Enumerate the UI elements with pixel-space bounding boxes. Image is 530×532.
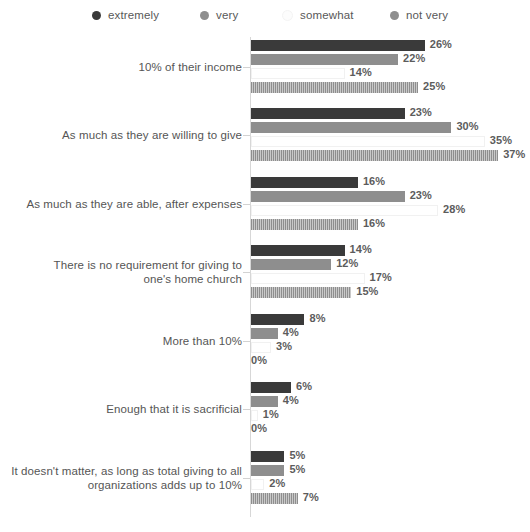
bar-rect — [251, 314, 304, 325]
bar-rect — [251, 396, 278, 407]
bar-rect — [251, 493, 298, 504]
category-label: More than 10% — [0, 334, 242, 348]
axis-tick — [243, 272, 250, 273]
category-label: There is no requirement for giving toone… — [0, 258, 242, 286]
bar-value-label: 3% — [276, 340, 292, 352]
legend-item-somewhat[interactable]: somewhat — [282, 9, 354, 21]
bar-value-label: 0% — [251, 354, 267, 366]
bar-rect — [251, 328, 278, 339]
bar-rect — [251, 259, 331, 270]
bar-very[interactable]: 5% — [251, 465, 284, 476]
bar-value-label: 14% — [350, 66, 372, 78]
bar-value-label: 22% — [403, 52, 425, 64]
bar-very[interactable]: 22% — [251, 54, 398, 65]
bar-somewhat[interactable]: 17% — [251, 273, 365, 284]
bar-not-very[interactable]: 15% — [251, 287, 351, 298]
bar-value-label: 7% — [303, 491, 319, 503]
bar-somewhat[interactable]: 2% — [251, 479, 264, 490]
legend-item-not-very[interactable]: not very — [390, 9, 448, 21]
bar-value-label: 5% — [289, 449, 305, 461]
bar-rect — [251, 68, 345, 79]
axis-tick — [243, 409, 250, 410]
bar-extremely[interactable]: 16% — [251, 177, 358, 188]
bar-not-very[interactable]: 7% — [251, 493, 298, 504]
bar-rect — [251, 150, 498, 161]
bar-rect — [251, 205, 438, 216]
axis-tick — [243, 204, 250, 205]
bar-rect — [251, 219, 358, 230]
legend-item-very[interactable]: very — [200, 9, 238, 21]
bar-value-label: 12% — [336, 257, 358, 269]
bar-rect — [251, 245, 345, 256]
bar-value-label: 23% — [410, 189, 432, 201]
legend-item-label: very — [216, 9, 238, 21]
bar-not-very[interactable]: 37% — [251, 150, 498, 161]
bar-somewhat[interactable]: 28% — [251, 205, 438, 216]
bar-extremely[interactable]: 23% — [251, 108, 405, 119]
bar-somewhat[interactable]: 3% — [251, 342, 271, 353]
bar-group: 10% of their income26%22%14%25% — [0, 40, 530, 93]
bar-value-label: 16% — [363, 175, 385, 187]
bar-not-very[interactable]: 16% — [251, 219, 358, 230]
bar-extremely[interactable]: 14% — [251, 245, 345, 256]
bar-extremely[interactable]: 26% — [251, 40, 425, 51]
bar-somewhat[interactable]: 35% — [251, 136, 485, 147]
bar-somewhat[interactable]: 1% — [251, 410, 258, 421]
category-label: It doesn't matter, as long as total givi… — [0, 464, 242, 492]
bar-rect — [251, 40, 425, 51]
bar-extremely[interactable]: 5% — [251, 451, 284, 462]
legend-swatch-icon — [200, 11, 209, 20]
axis-tick — [243, 341, 250, 342]
legend-item-label: somewhat — [300, 9, 354, 21]
bar-value-label: 28% — [443, 203, 465, 215]
bar-value-label: 8% — [309, 312, 325, 324]
bar-value-label: 16% — [363, 217, 385, 229]
bar-rect — [251, 287, 351, 298]
bar-value-label: 15% — [356, 285, 378, 297]
bar-group: As much as they are willing to give23%30… — [0, 108, 530, 161]
bar-very[interactable]: 4% — [251, 396, 278, 407]
bar-rect — [251, 479, 264, 490]
bar-very[interactable]: 4% — [251, 328, 278, 339]
bar-value-label: 23% — [410, 106, 432, 118]
axis-tick — [243, 67, 250, 68]
bar-somewhat[interactable]: 14% — [251, 68, 345, 79]
bar-value-label: 14% — [350, 243, 372, 255]
bar-rect — [251, 136, 485, 147]
category-label: 10% of their income — [0, 60, 242, 74]
bar-rect — [251, 54, 398, 65]
bar-extremely[interactable]: 6% — [251, 382, 291, 393]
chart-legend: extremelyverysomewhatnot very — [0, 0, 530, 34]
bar-not-very[interactable]: 0% — [251, 424, 252, 435]
bar-very[interactable]: 30% — [251, 122, 451, 133]
bar-not-very[interactable]: 25% — [251, 82, 418, 93]
bar-not-very[interactable]: 0% — [251, 356, 252, 367]
legend-item-extremely[interactable]: extremely — [92, 9, 159, 21]
bar-rect — [251, 451, 284, 462]
legend-swatch-icon — [92, 11, 101, 20]
bar-rect — [251, 273, 365, 284]
bar-rect — [251, 82, 418, 93]
bar-value-label: 37% — [503, 148, 525, 160]
category-label: As much as they are able, after expenses — [0, 197, 242, 211]
bar-group: There is no requirement for giving toone… — [0, 245, 530, 298]
category-label: Enough that it is sacrificial — [0, 402, 242, 416]
bar-extremely[interactable]: 8% — [251, 314, 304, 325]
bar-rect — [251, 177, 358, 188]
bar-value-label: 26% — [430, 38, 452, 50]
bar-value-label: 35% — [490, 134, 512, 146]
bar-value-label: 30% — [456, 120, 478, 132]
bar-value-label: 2% — [269, 477, 285, 489]
category-label: As much as they are willing to give — [0, 128, 242, 142]
bar-rect — [251, 410, 258, 421]
axis-tick — [243, 478, 250, 479]
bar-very[interactable]: 23% — [251, 191, 405, 202]
bar-rect — [251, 122, 451, 133]
bar-group: As much as they are able, after expenses… — [0, 177, 530, 230]
bar-value-label: 4% — [283, 326, 299, 338]
bar-value-label: 4% — [283, 394, 299, 406]
bar-rect — [251, 382, 291, 393]
bar-very[interactable]: 12% — [251, 259, 331, 270]
bar-rect — [251, 108, 405, 119]
bar-group: It doesn't matter, as long as total givi… — [0, 451, 530, 504]
